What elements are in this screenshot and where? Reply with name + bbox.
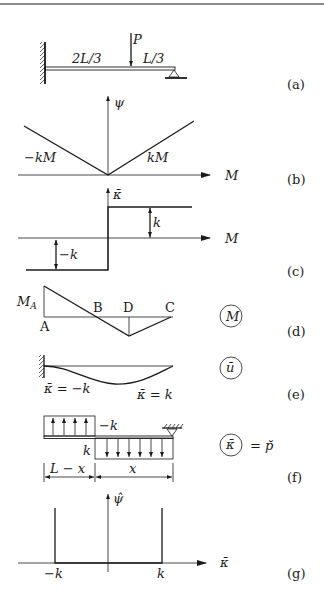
left-branch-label: −kM — [24, 150, 57, 165]
panel-tag-b: (b) — [287, 172, 305, 187]
lower-k-label: −k — [59, 247, 78, 262]
wall-hatch — [40, 42, 45, 84]
kappa-step-curve — [26, 207, 192, 270]
left-curvature-label: κ̄ = −k — [43, 381, 91, 396]
wall-hatch — [39, 355, 44, 378]
segment-left-label: 2L/3 — [71, 51, 102, 66]
psi-hat-curve — [55, 508, 162, 563]
right-curvature-label: κ̄ = k — [136, 387, 173, 402]
psi-axis-label: ψ — [114, 95, 125, 110]
panel-tag-g: (g) — [287, 566, 305, 581]
kappa-axis-label: κ̄ — [112, 187, 122, 202]
panel-tag-c: (c) — [287, 264, 304, 279]
equals-p-label: = p̆ — [250, 438, 274, 453]
m-axis-label: M — [224, 168, 239, 183]
kappa-axis-label: κ̄ — [219, 555, 229, 570]
right-tick-label: k — [157, 566, 165, 581]
panel-d-moment-diagram: MA A B D C M (d) — [16, 286, 305, 339]
psi-hat-axis-label: ψ̂ — [113, 491, 124, 506]
left-tick-label: −k — [44, 566, 63, 581]
panel-b-chart: ψ M −kM kM (b) — [18, 95, 305, 187]
dim-left-label: L − x — [49, 461, 86, 476]
m-axis-label: M — [224, 231, 239, 246]
circled-m-label: M — [225, 309, 240, 324]
circled-u-label: ū — [226, 360, 234, 375]
panel-f-curvature-load: −k k L − x x κ̄ = p̆ (f) — [44, 416, 302, 485]
lower-load-label: k — [83, 443, 91, 458]
dim-right-label: x — [129, 461, 137, 476]
segment-right-label: L/3 — [142, 51, 164, 66]
ma-label: MA — [16, 294, 37, 311]
pin-support-icon — [167, 429, 177, 436]
upper-load-block — [44, 416, 95, 436]
panel-e-deflection: κ̄ = −k κ̄ = k ū (e) — [39, 355, 305, 402]
point-d-label: D — [123, 300, 133, 315]
panel-tag-f: (f) — [287, 470, 302, 485]
panel-tag-d: (d) — [287, 324, 305, 339]
point-b-label: B — [93, 300, 103, 315]
load-label: P — [132, 32, 142, 47]
panel-a-beam: P 2L/3 L/3 (a) — [40, 32, 305, 92]
upper-load-label: −k — [99, 418, 118, 433]
upper-k-label: k — [153, 215, 161, 230]
roller-support-icon — [169, 70, 179, 77]
panel-g-chart: ψ̂ κ̄ −k k (g) — [18, 491, 305, 581]
panel-c-chart: κ̄ M k −k (c) — [18, 187, 304, 279]
beam — [45, 67, 175, 70]
panel-tag-a: (a) — [287, 77, 305, 92]
right-branch-label: kM — [147, 150, 169, 165]
point-a-label: A — [39, 319, 50, 334]
figure-canvas: P 2L/3 L/3 (a) ψ M −kM kM (b) κ̄ M k −k … — [0, 0, 324, 606]
circled-kappa-label: κ̄ — [225, 437, 235, 452]
point-c-label: C — [165, 300, 175, 315]
moment-curve — [44, 286, 171, 336]
panel-tag-e: (e) — [287, 387, 305, 402]
psi-curve — [24, 121, 194, 175]
